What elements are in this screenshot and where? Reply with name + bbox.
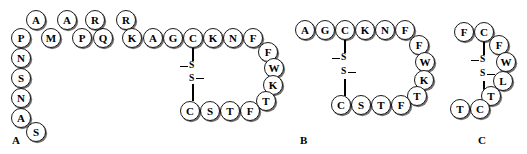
sulfur-link-dash — [471, 60, 479, 61]
sulfur-label: S — [340, 53, 347, 63]
sulfur-label: S — [188, 74, 195, 84]
residue-circle: M — [41, 28, 61, 48]
residue-circle: C — [180, 101, 200, 121]
sulfur-label: S — [479, 55, 486, 65]
peptide-structure-figure: SSPAMAPQRRKAGCKNFFWKTFTSCNSNASASSAGCKNFF… — [0, 0, 527, 154]
residue-circle: G — [163, 28, 183, 48]
residue-circle: N — [11, 48, 31, 68]
residue-circle: S — [26, 122, 46, 142]
residue-circle: A — [143, 28, 163, 48]
residue-circle: A — [26, 10, 46, 30]
residue-circle: N — [375, 20, 395, 40]
panel-c: SSFCFWLTCTC — [0, 0, 527, 154]
residue-circle: F — [454, 22, 474, 42]
residue-circle: S — [200, 101, 220, 121]
residue-circle: A — [57, 10, 77, 30]
residue-circle: F — [391, 95, 411, 115]
sulfur-label: S — [188, 61, 195, 71]
residue-circle: W — [415, 52, 435, 72]
residue-circle: P — [11, 28, 31, 48]
residue-circle: F — [240, 101, 260, 121]
residue-circle: C — [335, 20, 355, 40]
residue-circle: C — [183, 28, 203, 48]
disulfide-bond-segment — [192, 84, 194, 101]
residue-circle: N — [11, 88, 31, 108]
residue-circle: T — [371, 95, 391, 115]
residue-circle: K — [203, 28, 223, 48]
residue-circle: C — [331, 95, 351, 115]
residue-circle: W — [496, 52, 516, 72]
residue-circle: S — [351, 95, 371, 115]
residue-circle: T — [450, 99, 470, 119]
residue-circle: S — [11, 68, 31, 88]
residue-circle: N — [223, 28, 243, 48]
residue-circle: R — [85, 10, 105, 30]
residue-circle: K — [122, 28, 142, 48]
sulfur-link-dash — [180, 66, 188, 67]
residue-circle: C — [470, 99, 490, 119]
sulfur-label: S — [340, 67, 347, 77]
sulfur-link-dash — [332, 58, 340, 59]
residue-circle: R — [116, 10, 136, 30]
residue-circle: T — [220, 101, 240, 121]
residue-circle: K — [355, 20, 375, 40]
residue-circle: Q — [93, 28, 113, 48]
panel-label: C — [478, 135, 486, 146]
sulfur-link-dash — [348, 72, 356, 73]
residue-circle: A — [295, 20, 315, 40]
residue-circle: P — [72, 28, 92, 48]
disulfide-bond-segment — [344, 79, 346, 96]
residue-circle: G — [315, 20, 335, 40]
sulfur-link-dash — [196, 78, 204, 79]
sulfur-label: S — [479, 69, 486, 79]
